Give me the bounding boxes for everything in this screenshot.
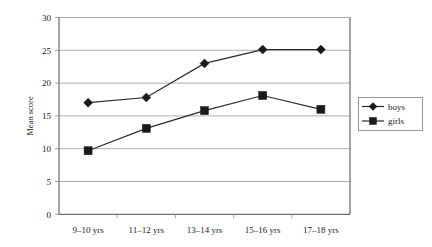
y-tick-label: 20 — [42, 78, 52, 88]
girls-point-marker — [317, 105, 325, 113]
girls-point-marker — [84, 147, 92, 155]
y-tick-label: 25 — [42, 46, 52, 56]
legend-label-boys: boys — [388, 102, 406, 112]
legend-label-girls: girls — [388, 116, 404, 126]
x-tick-label: 17–18 yrs — [303, 225, 339, 235]
chart-canvas: 30 25 20 15 10 5 0 9–10 yrs 11–12 yrs 13… — [0, 0, 432, 247]
y-tick-label: 5 — [47, 177, 52, 187]
y-tick-label: 0 — [47, 210, 52, 220]
y-tick-label: 10 — [42, 144, 52, 154]
girls-point-marker — [201, 107, 209, 115]
x-tick-label: 9–10 yrs — [72, 225, 104, 235]
x-tick-label: 13–14 yrs — [187, 225, 223, 235]
y-axis-title: Mean score — [25, 96, 35, 136]
girls-point-marker — [142, 124, 150, 132]
square-marker-icon — [370, 118, 377, 125]
x-tick-label: 15–16 yrs — [245, 225, 281, 235]
y-tick-label: 30 — [42, 13, 52, 23]
y-tick-label: 15 — [42, 111, 52, 121]
legend: boys girls — [359, 98, 423, 131]
line-chart: 30 25 20 15 10 5 0 9–10 yrs 11–12 yrs 13… — [0, 0, 432, 247]
x-tick-label: 11–12 yrs — [129, 225, 165, 235]
girls-point-marker — [259, 92, 267, 100]
